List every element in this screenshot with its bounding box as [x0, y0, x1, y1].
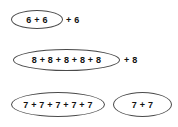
circled-group: 7 + 7: [113, 92, 172, 117]
expression-row-2: 8 + 8 + 8 + 8 + 8 + 8: [0, 45, 178, 85]
worksheet-canvas: 6 + 6 + 6 8 + 8 + 8 + 8 + 8 + 8 7 + 7 + …: [0, 0, 178, 127]
trailing-term: + 6: [66, 13, 79, 26]
group-expression: 6 + 6: [26, 15, 47, 25]
expression-row-1: 6 + 6 + 6: [0, 0, 178, 42]
expression-row-3: 7 + 7 + 7 + 7 + 7 7 + 7: [0, 86, 178, 127]
trailing-term: + 8: [124, 53, 137, 66]
group-expression: 7 + 7 + 7 + 7 + 7: [23, 100, 92, 110]
circled-group: 6 + 6: [11, 10, 63, 29]
circled-group: 7 + 7 + 7 + 7 + 7: [11, 92, 105, 117]
group-expression: 7 + 7: [132, 100, 153, 110]
circled-group: 8 + 8 + 8 + 8 + 8: [13, 49, 120, 71]
group-expression: 8 + 8 + 8 + 8 + 8: [32, 55, 101, 65]
